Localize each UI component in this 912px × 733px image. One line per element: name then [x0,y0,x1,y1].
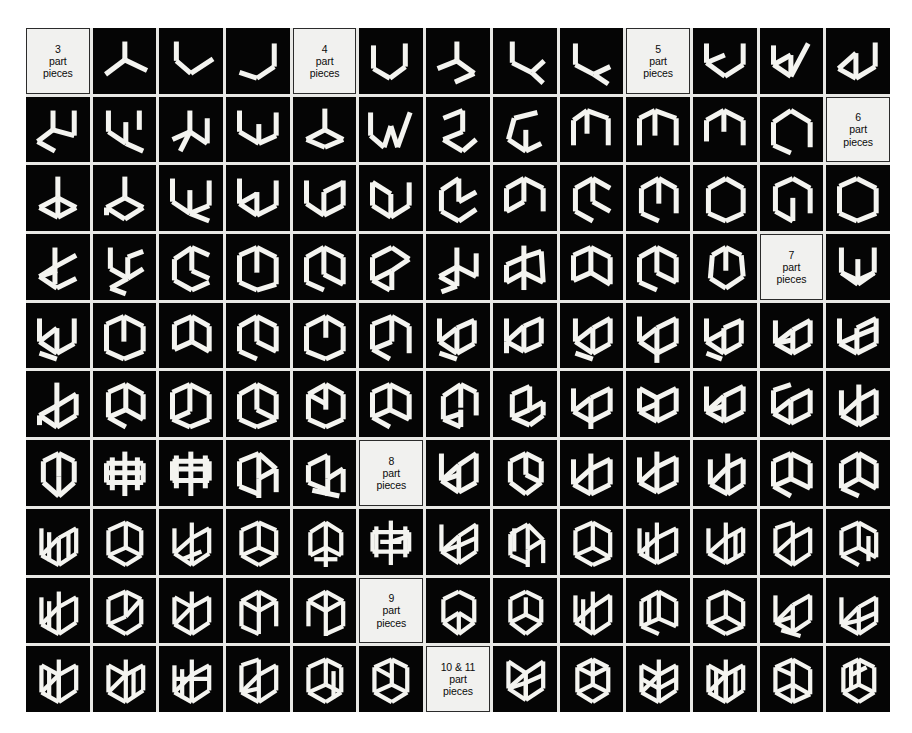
rod-assembly-r1c4 [226,28,290,94]
rod-assembly-r9c4 [226,578,290,644]
rod-assembly-r4c10 [626,234,690,300]
caption-line-pieces: pieces [376,617,406,629]
rod-assembly-r9c10 [626,578,690,644]
rod-assembly-r5c13 [826,303,890,369]
rod-assembly-r8c6 [359,509,423,575]
rod-assembly-r4c3 [159,234,223,300]
rod-assembly-r8c1 [26,509,90,575]
rod-assembly-r9c1 [26,578,90,644]
rod-assembly-r4c5 [293,234,357,300]
rod-assembly-r1c11 [693,28,757,94]
rod-assembly-r3c7 [426,165,490,231]
caption-line-pieces: pieces [843,136,873,148]
rod-assembly-r9c9 [560,578,624,644]
rod-assembly-r8c5 [293,509,357,575]
rod-assembly-r4c4 [226,234,290,300]
rod-assembly-r2c11 [693,97,757,163]
rod-assembly-r4c13 [826,234,890,300]
caption-tile-3: 3partpieces [26,28,90,94]
rod-assembly-r9c7 [426,578,490,644]
rod-assembly-r2c8 [493,97,557,163]
figure-plate: 3partpieces4partpieces5partpieces6partpi… [26,28,890,712]
caption-line-pieces: pieces [43,67,73,79]
rod-assembly-r3c2 [93,165,157,231]
rod-assembly-r10c8 [493,646,557,712]
rod-assembly-r4c11 [693,234,757,300]
rod-assembly-r3c5 [293,165,357,231]
rod-assembly-r2c6 [359,97,423,163]
rod-assembly-r2c10 [626,97,690,163]
rod-assembly-r2c2 [93,97,157,163]
rod-assembly-r7c7 [426,440,490,506]
rod-assembly-r6c3 [159,371,223,437]
caption-line-part: part [449,673,467,685]
caption-line-pieces: pieces [443,685,473,697]
caption-line-pieces: pieces [310,67,340,79]
rod-assembly-r3c9 [560,165,624,231]
rod-assembly-r9c5 [293,578,357,644]
rod-assembly-r9c8 [493,578,557,644]
caption-line-part: part [382,467,400,479]
rod-assembly-r7c9 [560,440,624,506]
rod-assembly-r3c3 [159,165,223,231]
rod-assembly-r9c2 [93,578,157,644]
rod-assembly-r9c3 [159,578,223,644]
rod-assembly-r10c12 [760,646,824,712]
rod-assembly-r6c4 [226,371,290,437]
rod-assembly-r10c5 [293,646,357,712]
rod-assembly-r10c10 [626,646,690,712]
rod-assembly-r6c2 [93,371,157,437]
rod-assembly-r8c4 [226,509,290,575]
rod-assembly-r3c8 [493,165,557,231]
rod-assembly-r8c12 [760,509,824,575]
rod-assembly-r6c6 [359,371,423,437]
rod-assembly-r6c8 [493,371,557,437]
rod-assembly-r10c13 [826,646,890,712]
rod-assembly-r2c12 [760,97,824,163]
rod-assembly-r6c9 [560,371,624,437]
rod-assembly-r10c3 [159,646,223,712]
rod-assembly-r7c8 [493,440,557,506]
rod-assembly-r6c1 [26,371,90,437]
rod-assembly-r3c1 [26,165,90,231]
rod-assembly-r7c1 [26,440,90,506]
rod-assembly-r6c12 [760,371,824,437]
rod-assembly-r4c1 [26,234,90,300]
rod-assembly-r5c10 [626,303,690,369]
rod-assembly-r8c10 [626,509,690,575]
rod-assembly-r7c12 [760,440,824,506]
caption-count: 8 [388,455,394,467]
rod-assembly-r1c12 [760,28,824,94]
rod-assembly-r8c8 [493,509,557,575]
caption-line-part: part [382,604,400,616]
rod-assembly-r6c13 [826,371,890,437]
rod-assembly-r1c7 [426,28,490,94]
rod-assembly-r8c9 [560,509,624,575]
rod-assembly-r6c11 [693,371,757,437]
rod-assembly-r9c12 [760,578,824,644]
caption-line-pieces: pieces [777,273,807,285]
rod-assembly-r10c1 [26,646,90,712]
caption-tile-10-11: 10 & 11partpieces [426,646,490,712]
rod-assembly-r6c7 [426,371,490,437]
rod-assembly-r7c13 [826,440,890,506]
rod-assembly-r6c5 [293,371,357,437]
rod-assembly-r4c6 [359,234,423,300]
rod-assembly-r1c6 [359,28,423,94]
caption-tile-4: 4partpieces [293,28,357,94]
rod-assembly-r5c2 [93,303,157,369]
rod-assembly-r1c8 [493,28,557,94]
rod-assembly-r3c10 [626,165,690,231]
rod-assembly-r2c4 [226,97,290,163]
rod-assembly-r3c12 [760,165,824,231]
caption-tile-9: 9partpieces [359,578,423,644]
rod-assembly-r8c11 [693,509,757,575]
rod-assembly-r3c11 [693,165,757,231]
rod-assembly-r1c3 [159,28,223,94]
caption-count: 10 & 11 [441,661,476,673]
rod-assembly-r2c9 [560,97,624,163]
caption-tile-6: 6partpieces [826,97,890,163]
caption-line-pieces: pieces [643,67,673,79]
rod-assembly-r5c4 [226,303,290,369]
rod-assembly-r3c13 [826,165,890,231]
